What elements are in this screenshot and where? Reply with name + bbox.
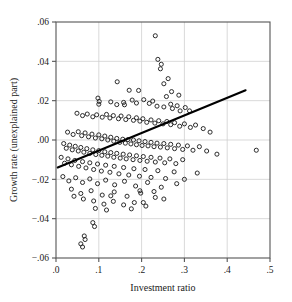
x-tick-label: .3	[181, 265, 188, 275]
scatter-plot-figure: .0.1.2.3.4.5 −.06−.04−.02.00.02.04.06 In…	[0, 0, 292, 302]
x-tick-label: .2	[138, 265, 145, 275]
x-axis-title: Investment ratio	[130, 282, 195, 293]
chart-svg: .0.1.2.3.4.5 −.06−.04−.02.00.02.04.06 In…	[0, 0, 292, 302]
y-tick-label: −.02	[32, 175, 49, 185]
y-tick-label: .04	[37, 57, 49, 67]
y-tick-label: .06	[37, 17, 49, 27]
y-tick-label: .02	[37, 96, 49, 106]
y-tick-label: −.04	[32, 214, 49, 224]
y-axis-title: Growth rate (unexplained part)	[8, 78, 20, 202]
x-tick-label: .5	[266, 265, 273, 275]
y-tick-label: .00	[37, 135, 49, 145]
x-tick-label: .1	[95, 265, 102, 275]
x-tick-label: .4	[224, 265, 231, 275]
x-tick-label: .0	[52, 265, 59, 275]
y-tick-label: −.06	[32, 253, 49, 263]
